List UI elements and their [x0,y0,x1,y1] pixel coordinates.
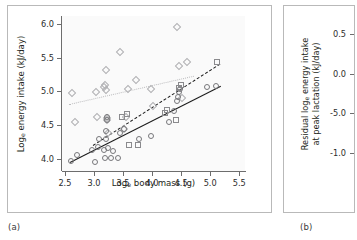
data-point-circle [108,155,114,161]
x-tick-mark [210,171,211,176]
y-tick-mark [57,159,62,160]
data-point-circle [115,155,121,161]
panel-b-y-tick-label: 0.5 [333,29,346,39]
figure-container: Loge energy intake (kJ/day) 6.05.55.04.5… [0,0,357,240]
data-point-square [214,59,220,65]
panel-b-ylabel: Residual loge energy intakeat peak lacta… [300,37,321,149]
panel-b-y-tick-label: -1.0 [330,148,346,158]
panel-a-xlabel-suffix: body mass (g) [131,178,195,188]
panel-b-ylabel-line1-prefix: Residual log [300,100,310,150]
panel-b-caption: (b) [300,222,312,232]
data-point-circle [68,158,74,164]
data-point-circle [92,159,98,165]
data-point-circle [104,114,110,120]
y-tick-mark [57,91,62,92]
y-tick-label: 4.5 [41,120,54,130]
data-point-circle [121,126,127,132]
y-axis-line [61,16,62,171]
data-point-circle [103,136,109,142]
data-point-square [173,117,179,123]
panel-b-y-tick-label: -5.0 [330,108,346,118]
data-point-square [126,142,132,148]
panel-a-xlabel-prefix: Log [112,178,127,188]
x-tick-mark [152,171,153,176]
x-tick-mark [123,171,124,176]
data-point-circle [103,128,109,134]
x-tick-mark [181,171,182,176]
x-axis-line [62,171,246,172]
panel-b-y-tick-mark [350,113,354,114]
x-tick-mark [65,171,66,176]
panel-a-ylabel-wrap: Loge energy intake (kJ/day) [14,16,28,171]
y-tick-label: 5.0 [41,86,54,96]
data-point-circle [96,136,102,142]
panel-b-y-tick-label: 0.0 [333,69,346,79]
data-point-circle [74,152,80,158]
panel-b-ylabel-line1-suffix: energy intake [300,37,310,96]
data-point-square [135,142,141,148]
panel-b-plot-area: 0.50.0-5.0-1.0 [350,16,354,171]
y-tick-mark [57,58,62,59]
x-tick-mark [94,171,95,176]
panel-a-ylabel: Loge energy intake (kJ/day) [16,35,26,152]
data-point-circle [171,108,177,114]
panel-a-caption: (a) [8,222,20,232]
panel-a-ylabel-prefix: Log [16,136,26,151]
panel-a-xlabel: Loge body mass (g) [62,178,245,188]
data-point-circle [213,83,219,89]
y-tick-label: 5.5 [41,53,54,63]
y-tick-mark [57,24,62,25]
y-tick-label: 4.0 [41,154,54,164]
data-point-square [124,111,130,117]
panel-b-y-tick-mark [350,153,354,154]
panel-b-ylabel-line2: at peak lactation (kJ/day) [310,42,320,145]
panel-b-ylabel-wrap: Residual loge energy intakeat peak lacta… [296,16,324,171]
panel-b-y-tick-mark [350,34,354,35]
panel-b-y-tick-mark [350,74,354,75]
data-point-square [178,82,184,88]
data-point-square [164,107,170,113]
panel-a-ylabel-suffix: energy intake (kJ/day) [16,35,26,133]
data-point-circle [204,84,210,90]
data-point-circle [136,136,142,142]
data-point-circle [110,148,116,154]
x-tick-mark [239,171,240,176]
data-point-circle [166,119,172,125]
data-point-circle [102,155,108,161]
y-tick-mark [57,125,62,126]
y-tick-label: 6.0 [41,19,54,29]
panel-a-plot-area: 6.05.55.04.54.0 2.53.03.54.04.55.05.5 [62,16,245,171]
data-point-circle [148,133,154,139]
